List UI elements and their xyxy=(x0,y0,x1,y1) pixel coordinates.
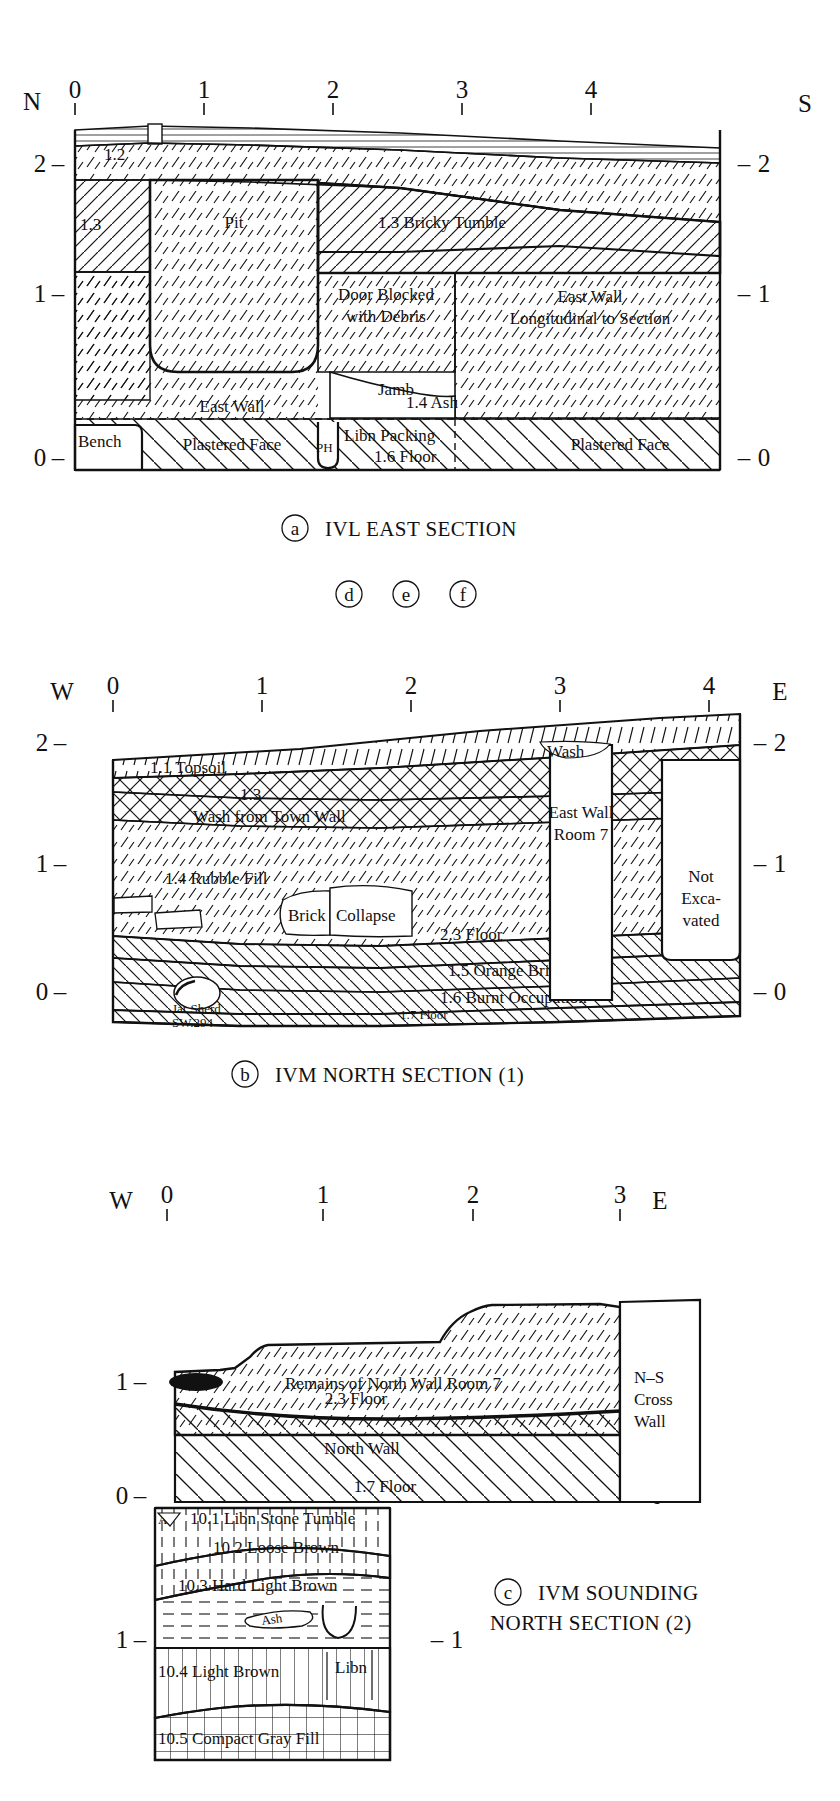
caption-text-c-line1: IVM SOUNDING xyxy=(538,1581,699,1605)
label-door-blocked-1: Door Blocked xyxy=(338,285,434,304)
compass-left-label: N xyxy=(23,88,41,115)
level-0-right: 0 xyxy=(758,444,771,471)
level-0-right: 0 xyxy=(774,978,787,1005)
section-drawings-figure: N S 0 1 2 3 4 2 – 1 – 0 – – 2 – 1 xyxy=(0,0,840,1801)
label-libn: Libn xyxy=(335,1658,368,1677)
east-wall-room-7-column xyxy=(550,745,612,1000)
level-dash: – xyxy=(753,729,767,756)
scale-tick-0-label: 0 xyxy=(69,76,82,103)
compass-right-label: E xyxy=(772,678,787,705)
level-dash: – xyxy=(737,444,751,471)
caption-text-a: IVL EAST SECTION xyxy=(325,517,517,541)
level-2-left: 2 xyxy=(36,729,49,756)
stone-blob xyxy=(169,1373,223,1391)
caption-letter-a: a xyxy=(291,518,300,539)
label-jar-sherd: Jar Sherd xyxy=(172,1001,221,1016)
level-1-right: 1 xyxy=(758,280,771,307)
label-floor-1-7: 1.7 Floor xyxy=(354,1477,417,1496)
label-north-wall: North Wall xyxy=(324,1439,400,1458)
level-dash: – xyxy=(53,729,67,756)
label-unit-1-2: 1.2 xyxy=(104,145,125,164)
level-2-left: 2 xyxy=(34,150,47,177)
level-1-left: 1 xyxy=(36,850,49,877)
label-post-hole: PH xyxy=(316,440,333,455)
label-floor-1-7: 1.7 Floor xyxy=(400,1007,448,1022)
surface-marker-box xyxy=(148,124,162,144)
level-dash: – xyxy=(133,1626,147,1653)
section-b-drawing: 1.1 Topsoil 1.3 Wash from Town Wall 1.4 … xyxy=(113,714,740,1030)
level-1-left: 1 xyxy=(34,280,47,307)
label-brick: Brick xyxy=(288,906,326,925)
level-dash: – xyxy=(737,150,751,177)
label-east-wall-room-7-1: East Wall xyxy=(549,803,614,822)
level-dash: – xyxy=(753,978,767,1005)
label-floor-2-3: 2.3 Floor xyxy=(325,1389,388,1408)
level-dash: – xyxy=(51,280,65,307)
label-ash: Ash xyxy=(260,1610,283,1628)
marker-d: d xyxy=(344,584,354,605)
label-hard-light-brown: 10.3 Hard Light Brown xyxy=(178,1576,338,1595)
level-dash: – xyxy=(51,150,65,177)
label-plastered-face-right: Plastered Face xyxy=(571,435,670,454)
level-dash: – xyxy=(430,1626,444,1653)
pit xyxy=(150,180,318,372)
label-bricky-tumble: 1.3 Bricky Tumble xyxy=(378,213,506,232)
level-1-lower-right: 1 xyxy=(451,1626,464,1653)
scale-tick-1-label: 1 xyxy=(317,1181,330,1208)
compass-right-label: E xyxy=(652,1187,667,1214)
level-dash: – xyxy=(133,1482,147,1509)
scale-tick-2-label: 2 xyxy=(405,672,418,699)
level-1-lower-left: 1 xyxy=(116,1626,129,1653)
label-east-wall: East Wall xyxy=(200,397,265,416)
label-wash-from-town-wall: Wash from Town Wall xyxy=(193,807,346,826)
left-feature-box-2 xyxy=(155,910,202,929)
scale-tick-1-label: 1 xyxy=(198,76,211,103)
label-loose-brown: 10.2 Loose Brown xyxy=(213,1538,340,1557)
scale-tick-4-label: 4 xyxy=(703,672,716,699)
label-not-excavated-2: Exca- xyxy=(681,889,721,908)
level-dash: – xyxy=(53,850,67,877)
scale-tick-2-label: 2 xyxy=(467,1181,480,1208)
compass-left-label: W xyxy=(109,1187,133,1214)
compass-left-label: W xyxy=(50,678,74,705)
label-ash: 1.4 Ash xyxy=(406,393,458,412)
level-dash: – xyxy=(133,1368,147,1395)
scale-tick-4-label: 4 xyxy=(585,76,598,103)
label-collapse: Collapse xyxy=(336,906,396,925)
label-libn-stone-tumble: 10.1 Libn Stone Tumble xyxy=(190,1509,355,1528)
label-not-excavated-1: Not xyxy=(688,867,714,886)
level-0-left: 0 xyxy=(116,1482,129,1509)
caption-letter-b: b xyxy=(240,1064,250,1085)
level-dash: – xyxy=(53,978,67,1005)
not-excavated-column xyxy=(662,760,740,960)
label-remains-north-wall: Remains of North Wall Room 7 xyxy=(285,1374,501,1393)
left-feature-box-1 xyxy=(114,896,152,913)
label-jar-sherd-number: SW.294 xyxy=(172,1015,214,1030)
label-bench: Bench xyxy=(78,432,122,451)
caption-text-b: IVM NORTH SECTION (1) xyxy=(275,1063,524,1087)
label-east-wall-longitudinal-2: Longitudinal to Section xyxy=(510,309,671,328)
label-rubble-fill: 1.4 Rubble Fill xyxy=(165,869,268,888)
section-b-caption: b IVM NORTH SECTION (1) xyxy=(232,1061,524,1087)
level-2-right: 2 xyxy=(758,150,771,177)
label-floor-2-3: 2.3 Floor xyxy=(440,925,503,944)
label-unit-1-3-left: 1.3 xyxy=(80,215,101,234)
scale-tick-0-label: 0 xyxy=(107,672,120,699)
scale-tick-0-label: 0 xyxy=(161,1181,174,1208)
label-floor-1-6: 1.6 Floor xyxy=(374,447,437,466)
scale-tick-3-label: 3 xyxy=(614,1181,627,1208)
label-east-wall-longitudinal-1: East Wall xyxy=(558,287,623,306)
caption-text-c-line2: NORTH SECTION (2) xyxy=(490,1611,692,1635)
label-door-blocked-2: with Debris xyxy=(346,307,426,326)
label-compact-gray-fill: 10.5 Compact Gray Fill xyxy=(158,1729,320,1748)
label-wash: Wash xyxy=(547,742,585,761)
label-east-wall-room-7-2: Room 7 xyxy=(554,825,609,844)
scale-tick-2-label: 2 xyxy=(327,76,340,103)
scale-tick-1-label: 1 xyxy=(256,672,269,699)
level-dash: – xyxy=(753,850,767,877)
scale-tick-3-label: 3 xyxy=(554,672,567,699)
label-libn-packing: Libn Packing xyxy=(344,426,436,445)
label-pit: Pit xyxy=(225,213,244,232)
label-light-brown: 10.4 Light Brown xyxy=(158,1662,280,1681)
label-plastered-face-left: Plastered Face xyxy=(183,435,282,454)
